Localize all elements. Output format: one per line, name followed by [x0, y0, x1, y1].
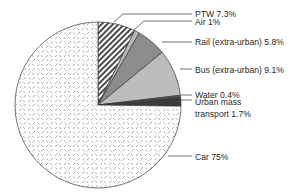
slice-labels: PTW 7.3% Air 1% Rail (extra-urban) 5.8% … [195, 9, 284, 162]
pie-slices [15, 22, 181, 188]
label-rail: Rail (extra-urban) 5.8% [195, 37, 284, 47]
pie-chart: PTW 7.3% Air 1% Rail (extra-urban) 5.8% … [0, 0, 302, 196]
leader-air [134, 21, 192, 30]
label-urban-line1: Urban mass [195, 97, 241, 107]
label-bus: Bus (extra-urban) 9.1% [195, 65, 284, 75]
label-urban-line2: transport 1.7% [195, 109, 251, 119]
label-car: Car 75% [195, 152, 229, 162]
label-air: Air 1% [195, 17, 221, 27]
